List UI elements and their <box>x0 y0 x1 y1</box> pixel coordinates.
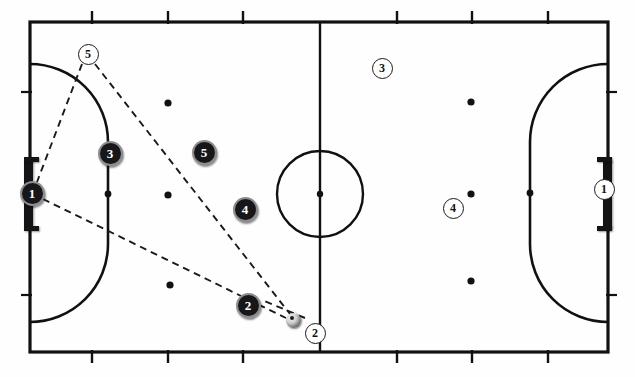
left-goal-stub-1 <box>24 157 39 162</box>
position-marker <box>164 191 171 198</box>
ball-icon[interactable] <box>286 313 301 328</box>
player-token-dark-5[interactable]: 5 <box>192 140 217 165</box>
right-goal-stub-1 <box>597 157 612 162</box>
player-token-dark-4[interactable]: 4 <box>233 197 258 222</box>
player-token-light-1[interactable]: 1 <box>594 179 615 200</box>
player-token-light-3[interactable]: 3 <box>372 58 393 79</box>
position-marker <box>467 277 474 284</box>
player-token-dark-3[interactable]: 3 <box>98 141 123 166</box>
press-line-keeper <box>37 64 82 182</box>
player-token-dark-2[interactable]: 2 <box>236 293 261 318</box>
player-token-dark-1[interactable]: 1 <box>20 181 45 206</box>
second-penalty-spot-right <box>527 190 534 197</box>
second-penalty-spot-left <box>105 191 112 198</box>
tactics-board: 1354253421 <box>0 0 635 377</box>
player-token-light-2[interactable]: 2 <box>305 323 326 344</box>
press-line-ball <box>95 64 290 314</box>
player-token-light-5[interactable]: 5 <box>78 44 99 65</box>
player-token-light-4[interactable]: 4 <box>443 198 464 219</box>
position-marker <box>164 99 171 106</box>
position-marker <box>467 190 474 197</box>
position-marker <box>467 98 474 105</box>
pitch-lines <box>30 22 608 352</box>
position-marker <box>166 281 173 288</box>
center-spot <box>317 191 323 197</box>
right-goal-stub-2 <box>597 226 612 231</box>
left-goal-stub-2 <box>24 226 39 231</box>
